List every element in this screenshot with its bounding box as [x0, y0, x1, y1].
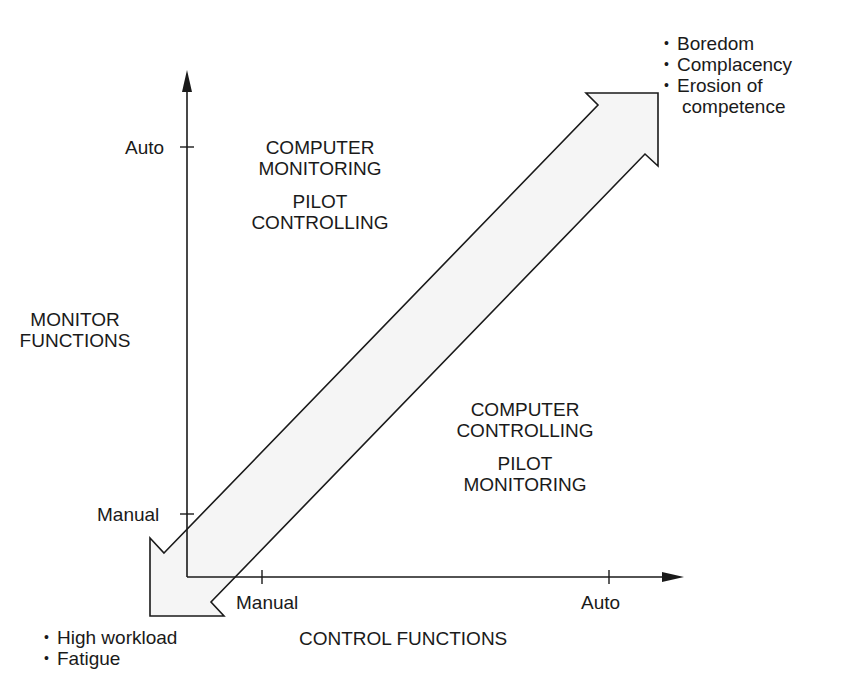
effect-erosion-continuation: competence: [664, 96, 792, 117]
region-upper-left-line4: CONTROLLING: [230, 212, 410, 233]
bottom-left-effects-list: High workload Fatigue: [44, 627, 177, 669]
x-axis-title: CONTROL FUNCTIONS: [299, 628, 507, 649]
region-lower-right-line4: MONITORING: [435, 474, 615, 495]
y-axis-title-line2: FUNCTIONS: [10, 330, 140, 351]
y-tick-label-auto: Auto: [125, 137, 164, 158]
effect-boredom: Boredom: [664, 33, 792, 54]
region-upper-left-line2: MONITORING: [230, 158, 410, 179]
region-upper-left: COMPUTER MONITORING PILOT CONTROLLING: [230, 137, 410, 233]
top-right-effects-list: Boredom Complacency Erosion of competenc…: [664, 33, 792, 117]
region-lower-right-pilot: PILOT MONITORING: [435, 453, 615, 495]
region-lower-right-line2: CONTROLLING: [435, 420, 615, 441]
region-lower-right-computer: COMPUTER CONTROLLING: [435, 399, 615, 441]
effect-high-workload: High workload: [44, 627, 177, 648]
effect-erosion-of-competence: Erosion of: [664, 75, 792, 96]
region-lower-right-line3: PILOT: [435, 453, 615, 474]
region-upper-left-line3: PILOT: [230, 191, 410, 212]
region-upper-left-computer: COMPUTER MONITORING: [230, 137, 410, 179]
y-axis-title: MONITOR FUNCTIONS: [10, 309, 140, 351]
region-lower-right-line1: COMPUTER: [435, 399, 615, 420]
effect-complacency: Complacency: [664, 54, 792, 75]
region-upper-left-pilot: PILOT CONTROLLING: [230, 191, 410, 233]
y-tick-label-manual: Manual: [97, 504, 159, 525]
x-axis-arrowhead-icon: [662, 572, 684, 582]
effect-fatigue: Fatigue: [44, 648, 177, 669]
y-axis-arrowhead-icon: [182, 70, 192, 92]
region-upper-left-line1: COMPUTER: [230, 137, 410, 158]
region-lower-right: COMPUTER CONTROLLING PILOT MONITORING: [435, 399, 615, 495]
y-axis-title-line1: MONITOR: [10, 309, 140, 330]
x-tick-label-manual: Manual: [236, 592, 298, 613]
x-tick-label-auto: Auto: [581, 592, 620, 613]
